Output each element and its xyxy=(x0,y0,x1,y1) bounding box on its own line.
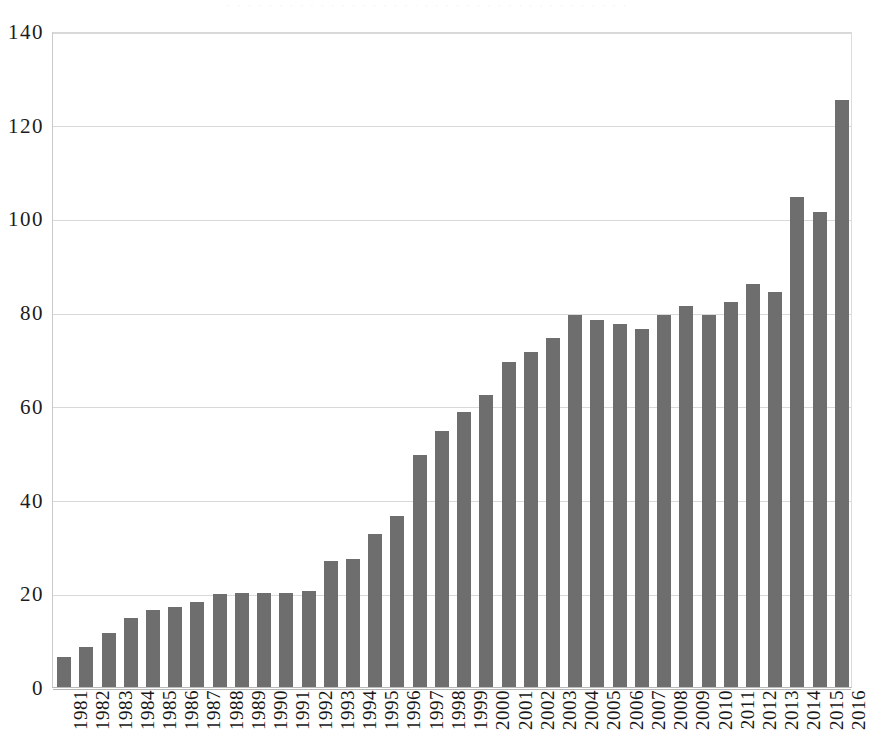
x-tick-label-1993: 1993 xyxy=(338,690,358,744)
x-tick-label-2016: 2016 xyxy=(849,690,869,744)
x-tick-label-2001: 2001 xyxy=(516,690,536,744)
bar-2006 xyxy=(613,324,627,687)
x-tick-label-1999: 1999 xyxy=(471,690,491,744)
y-tick-label-60: 60 xyxy=(0,394,44,419)
x-tick-label-1994: 1994 xyxy=(360,690,380,744)
x-tick-label-1982: 1982 xyxy=(93,690,113,744)
x-tick-label-2015: 2015 xyxy=(827,690,847,744)
bar-2007 xyxy=(635,329,649,687)
gridline-120 xyxy=(53,126,851,127)
x-tick-label-2014: 2014 xyxy=(804,690,824,744)
x-tick-label-1981: 1981 xyxy=(71,690,91,744)
y-tick-label-40: 40 xyxy=(0,488,44,513)
bar-2003 xyxy=(546,338,560,687)
y-tick-label-0: 0 xyxy=(0,676,44,701)
bar-2001 xyxy=(502,362,516,687)
y-tick-label-20: 20 xyxy=(0,582,44,607)
gridline-100 xyxy=(53,220,851,221)
x-tick-label-1998: 1998 xyxy=(449,690,469,744)
x-tick-label-1987: 1987 xyxy=(204,690,224,744)
bar-2005 xyxy=(590,320,604,687)
bar-1984 xyxy=(124,618,138,687)
bar-1998 xyxy=(435,431,449,687)
gridline-140 xyxy=(53,33,851,34)
bar-1987 xyxy=(190,602,204,687)
bar-2010 xyxy=(702,315,716,688)
x-tick-label-1997: 1997 xyxy=(427,690,447,744)
x-tick-label-2004: 2004 xyxy=(582,690,602,744)
x-tick-label-2008: 2008 xyxy=(671,690,691,744)
x-tick-label-1988: 1988 xyxy=(227,690,247,744)
x-tick-label-1992: 1992 xyxy=(316,690,336,744)
x-tick-label-1991: 1991 xyxy=(293,690,313,744)
x-tick-label-2011: 2011 xyxy=(738,690,758,744)
bar-1986 xyxy=(168,607,182,687)
bar-2000 xyxy=(479,395,493,687)
bar-1994 xyxy=(346,559,360,687)
x-tick-label-1984: 1984 xyxy=(138,690,158,744)
x-tick-label-1995: 1995 xyxy=(382,690,402,744)
bar-1993 xyxy=(324,561,338,688)
y-tick-label-120: 120 xyxy=(0,113,44,138)
bar-2008 xyxy=(657,315,671,688)
x-tick-label-1985: 1985 xyxy=(160,690,180,744)
y-tick-label-100: 100 xyxy=(0,207,44,232)
cropped-caption-strip: · · · · · · · · · · · · · · · · · · · · … xyxy=(0,0,855,10)
bar-1990 xyxy=(257,593,271,687)
bar-2015 xyxy=(813,212,827,687)
x-tick-label-2013: 2013 xyxy=(782,690,802,744)
bar-1991 xyxy=(279,593,293,687)
x-tick-label-1986: 1986 xyxy=(182,690,202,744)
x-tick-label-1990: 1990 xyxy=(271,690,291,744)
bar-1999 xyxy=(457,412,471,687)
bar-1981 xyxy=(57,657,71,687)
bar-1982 xyxy=(79,647,93,687)
bar-1989 xyxy=(235,593,249,687)
bar-1988 xyxy=(213,594,227,687)
y-tick-label-80: 80 xyxy=(0,301,44,326)
bar-1992 xyxy=(302,591,316,687)
x-tick-label-2005: 2005 xyxy=(604,690,624,744)
x-tick-label-2010: 2010 xyxy=(716,690,736,744)
x-tick-label-2002: 2002 xyxy=(538,690,558,744)
x-tick-label-2003: 2003 xyxy=(560,690,580,744)
bar-2002 xyxy=(524,352,538,687)
bar-2009 xyxy=(679,306,693,687)
bar-1985 xyxy=(146,610,160,687)
bar-2014 xyxy=(790,197,804,687)
bar-1997 xyxy=(413,455,427,687)
x-tick-label-1983: 1983 xyxy=(116,690,136,744)
plot-area xyxy=(52,32,852,688)
x-tick-label-2000: 2000 xyxy=(493,690,513,744)
bar-1996 xyxy=(390,516,404,687)
bar-1983 xyxy=(102,633,116,687)
x-tick-label-2007: 2007 xyxy=(649,690,669,744)
bar-2012 xyxy=(746,284,760,687)
bar-2011 xyxy=(724,302,738,687)
x-tick-label-2012: 2012 xyxy=(760,690,780,744)
x-tick-label-1996: 1996 xyxy=(404,690,424,744)
bar-2013 xyxy=(768,292,782,687)
bar-2004 xyxy=(568,315,582,688)
x-tick-label-2006: 2006 xyxy=(627,690,647,744)
y-tick-label-140: 140 xyxy=(0,20,44,45)
bar-1995 xyxy=(368,534,382,687)
x-tick-label-2009: 2009 xyxy=(693,690,713,744)
x-axis: 1981198219831984198519861987198819891990… xyxy=(52,690,852,744)
x-tick-label-1989: 1989 xyxy=(249,690,269,744)
bar-2016 xyxy=(835,100,849,687)
